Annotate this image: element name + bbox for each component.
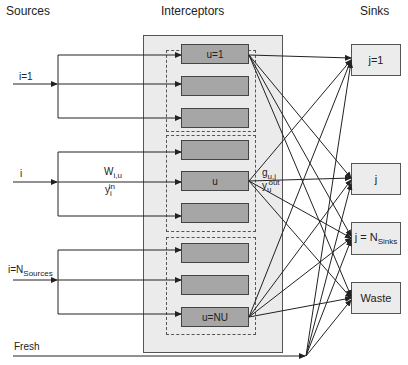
yout-label: yuout <box>262 180 280 194</box>
source-i1-label: i=1 <box>19 71 33 82</box>
source-in-label: i=NSources <box>8 264 53 278</box>
w-iu-label: Wi,u <box>104 166 122 180</box>
flow-lines <box>0 0 408 365</box>
source-fresh-label: Fresh <box>14 341 40 352</box>
yin-label: yiin <box>105 184 115 198</box>
source-i-label: i <box>20 168 22 179</box>
